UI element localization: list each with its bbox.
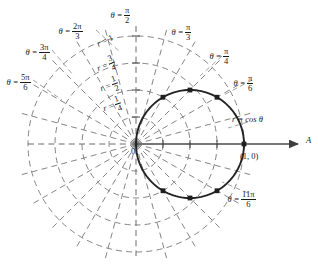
label-theta-pi-6: θ =π6 <box>232 74 253 93</box>
label-theta-pi-2: θ =π2 <box>109 6 130 25</box>
polar-plot-canvas <box>0 0 318 264</box>
label-theta-3pi-4: θ =3π4 <box>24 43 50 62</box>
label-point-1-0: (1, 0) <box>240 152 258 161</box>
label-theta-pi-4: θ =π4 <box>208 47 229 66</box>
label-theta-11pi-6: θ =11π6 <box>226 190 256 209</box>
polar-diagram: θ =π2 θ =2π3 θ =3π4 θ =5π6 θ =π3 θ =π4 θ… <box>0 0 318 264</box>
label-curve-equation: r = cos θ <box>232 115 263 124</box>
label-origin: 0 <box>131 147 135 156</box>
label-theta-2pi-3: θ =2π3 <box>57 22 83 41</box>
label-theta-5pi-6: θ =5π6 <box>5 73 31 92</box>
label-axis-A: A <box>306 136 311 145</box>
label-theta-pi-3: θ =π3 <box>170 23 191 42</box>
